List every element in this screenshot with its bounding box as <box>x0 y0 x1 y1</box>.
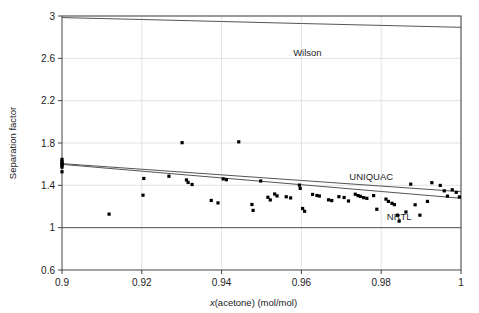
x-axis-tick-label: 0.9 <box>55 277 69 288</box>
data-point <box>250 203 253 206</box>
data-point <box>180 141 183 144</box>
data-point <box>299 187 302 190</box>
data-point <box>375 208 378 211</box>
data-point <box>301 207 304 210</box>
y-axis-tick-label: 1 <box>49 222 55 233</box>
data-point <box>359 195 362 198</box>
data-point <box>60 170 63 173</box>
data-point <box>275 194 278 197</box>
x-axis-tick-label: 0.96 <box>292 277 312 288</box>
data-point <box>222 177 225 180</box>
data-point <box>387 200 390 203</box>
curve-label-uniquac: UNIQUAC <box>349 171 393 182</box>
data-point <box>409 183 412 186</box>
data-point <box>354 193 357 196</box>
data-point <box>458 195 461 198</box>
data-point <box>186 181 189 184</box>
data-point <box>414 203 417 206</box>
data-point <box>418 214 421 217</box>
data-point <box>60 166 63 169</box>
data-point <box>393 203 396 206</box>
data-point <box>430 181 433 184</box>
y-axis-tick-label: 0.6 <box>41 265 55 276</box>
data-point <box>365 197 368 200</box>
data-point <box>337 195 340 198</box>
curve-wilson <box>62 18 461 28</box>
data-point <box>330 199 333 202</box>
data-point <box>107 213 110 216</box>
data-point <box>455 191 458 194</box>
data-point <box>451 188 454 191</box>
data-point <box>426 200 429 203</box>
y-axis-tick-label: 1.8 <box>41 138 55 149</box>
data-point <box>252 209 255 212</box>
data-point <box>269 198 272 201</box>
curve-label-wilson: Wilson <box>293 47 322 58</box>
y-axis-tick-label: 2.2 <box>41 95 55 106</box>
chart-figure: 0.90.920.940.960.9810.611.41.82.22.63x(a… <box>0 0 479 313</box>
data-point <box>318 194 321 197</box>
data-point <box>142 177 145 180</box>
data-point <box>216 201 219 204</box>
data-point <box>167 175 170 178</box>
data-point <box>396 214 399 217</box>
data-point <box>327 198 330 201</box>
x-axis-tick-label: 0.94 <box>212 277 232 288</box>
data-point <box>404 210 407 213</box>
y-axis-tick-label: 2.6 <box>41 53 55 64</box>
x-axis-tick-label: 0.98 <box>371 277 391 288</box>
data-point <box>298 184 301 187</box>
data-point <box>289 196 292 199</box>
x-axis-title: x(acetone) (mol/mol) <box>209 297 297 308</box>
separation-factor-scatter-plot: 0.90.920.940.960.9810.611.41.82.22.63x(a… <box>0 0 479 313</box>
x-axis-tick-label: 1 <box>458 277 464 288</box>
data-point <box>190 183 193 186</box>
data-point <box>342 196 345 199</box>
data-point <box>259 179 262 182</box>
data-point <box>210 199 213 202</box>
data-point <box>237 140 240 143</box>
data-point <box>439 184 442 187</box>
data-point <box>372 194 375 197</box>
curve-uniquac <box>62 164 461 192</box>
x-axis-title-units: (acetone) (mol/mol) <box>215 297 297 308</box>
data-point <box>398 220 401 223</box>
y-axis-title: Separation factor <box>7 107 18 179</box>
data-point <box>362 196 365 199</box>
data-point <box>443 189 446 192</box>
data-point <box>311 193 314 196</box>
data-point <box>446 195 449 198</box>
data-point <box>141 194 144 197</box>
data-point <box>285 195 288 198</box>
x-axis-tick-label: 0.92 <box>132 277 152 288</box>
data-point <box>303 210 306 213</box>
data-point <box>225 178 228 181</box>
y-axis-tick-label: 1.4 <box>41 180 55 191</box>
data-point <box>347 199 350 202</box>
y-axis-tick-label: 3 <box>49 11 55 22</box>
